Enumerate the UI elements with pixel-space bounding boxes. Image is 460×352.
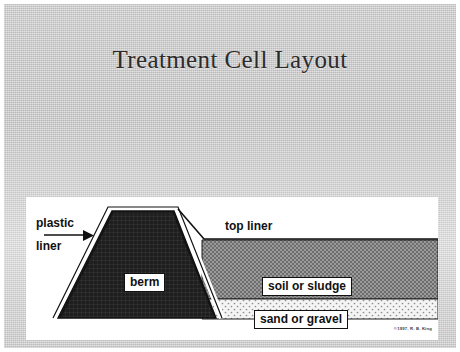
label-soil-or-sludge: soil or sludge <box>262 277 352 296</box>
label-plastic: plastic <box>36 217 74 229</box>
label-berm: berm <box>124 273 165 292</box>
label-top-liner: top liner <box>222 220 275 232</box>
slide: Treatment Cell Layout <box>0 0 460 352</box>
page-title: Treatment Cell Layout <box>0 46 460 74</box>
label-liner: liner <box>36 240 61 252</box>
diagram-panel: plastic liner top liner berm soil or slu… <box>26 197 438 340</box>
label-sand-or-gravel: sand or gravel <box>254 310 348 329</box>
copyright-notice: ©1997, R. B. King <box>394 326 432 331</box>
